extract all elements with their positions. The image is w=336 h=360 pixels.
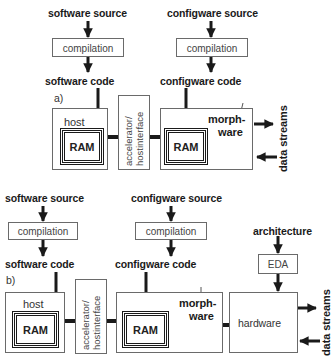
a-software-compilation-box: compilation [52,38,124,57]
b-morphware-ram: RAM [124,313,167,346]
a-software-compilation-label: compilation [53,42,123,53]
b-diagram-label: b) [6,274,15,286]
a-software-source-label: software source [48,7,127,19]
b-morphware-label-1: morph- [179,297,216,309]
b-accel-morph-connector [107,319,116,323]
a-configware-compilation-label: compilation [177,42,247,53]
a-morphware-ram: RAM [166,130,206,163]
b-morphware-ram-label: RAM [127,324,164,336]
a-data-streams-label: data streams [277,105,289,172]
b-hardware-box: hardware [229,292,298,353]
b-software-compilation-box: compilation [8,222,78,240]
b-software-compilation-label: compilation [9,226,77,237]
a-accelerator-label: accelerator/ hostinterface [123,112,145,166]
b-software-source-label: software source [5,192,84,204]
b-configware-code-label: configware code [115,258,196,270]
a-host-accel-connector [108,135,118,139]
b-configware-compilation-label: compilation [136,226,206,237]
a-accelerator-box: accelerator/ hostinterface [118,95,150,170]
b-accelerator-label: accelerator/ hostinterface [80,296,102,350]
b-host-accel-connector [65,319,75,323]
a-configware-code-label: configware code [160,75,241,87]
a-morphware-label-2: ware [218,126,243,138]
a-host-ram: RAM [62,130,102,163]
b-configware-compilation-box: compilation [135,222,207,240]
b-eda-label: EDA [259,259,297,270]
b-morphware-label-2: ware [189,310,214,322]
b-accelerator-box: accelerator/ hostinterface [75,279,107,354]
b-configware-source-label: configware source [131,192,222,204]
b-architecture-label: architecture [253,225,312,237]
b-software-code-label: software code [5,258,74,270]
a-morphware-ram-label: RAM [169,141,203,153]
b-hardware-label: hardware [238,317,281,329]
a-diagram-label: a) [54,92,63,104]
b-host-ram: RAM [14,313,57,346]
b-eda-box: EDA [258,254,298,274]
a-host-label: host [64,116,84,128]
a-configware-compilation-box: compilation [176,38,248,57]
a-host-ram-label: RAM [65,141,99,153]
a-accel-morph-connector [150,135,160,139]
b-host-label: host [23,298,43,310]
b-host-ram-label: RAM [17,324,54,336]
a-morphware-label-1: morph- [208,113,245,125]
a-software-code-label: software code [45,75,114,87]
b-data-streams-label: data streams [320,289,332,356]
a-configware-source-label: configware source [167,7,258,19]
